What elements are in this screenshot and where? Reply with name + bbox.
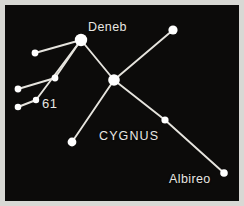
star-marker-lower-left	[15, 104, 22, 111]
star-marker-wing-junction	[52, 75, 59, 82]
star-marker-upper-left	[32, 50, 39, 57]
constellation-line	[114, 80, 165, 120]
constellation-line	[36, 40, 81, 100]
constellation-line	[165, 120, 224, 173]
constellation-line	[81, 40, 114, 80]
star-marker-tail-bottom	[68, 138, 77, 147]
star-chart-frame: Deneb 61 CYGNUS Albireo	[0, 0, 244, 206]
constellation-line	[114, 30, 173, 80]
star-label-albireo: Albireo	[169, 172, 211, 186]
star-label-deneb: Deneb	[88, 20, 127, 34]
star-marker-mid-right	[161, 116, 168, 123]
star-marker-albireo	[220, 169, 228, 177]
star-marker-deneb	[75, 34, 87, 46]
star-marker-left-mid	[15, 86, 22, 93]
constellation-name-label: CYGNUS	[99, 129, 159, 143]
star-marker-top-right	[168, 25, 177, 34]
star-label-61-cygni: 61	[42, 96, 57, 111]
star-marker-sixty-one	[33, 97, 39, 103]
star-marker-sadr	[108, 74, 120, 86]
